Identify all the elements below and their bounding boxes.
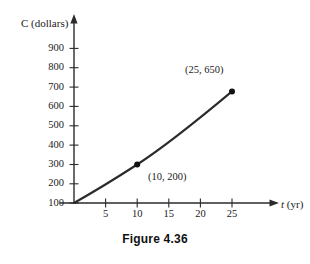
data-point-marker-25-650[interactable] (229, 88, 235, 94)
x-tick-label-15: 15 (157, 208, 181, 219)
chart-plot-area (0, 0, 310, 264)
y-tick-label-400: 400 (24, 139, 64, 150)
data-point-marker-10-200[interactable] (134, 162, 140, 168)
x-tick-label-20: 20 (188, 208, 212, 219)
y-axis-title: C (dollars) (21, 17, 68, 29)
x-axis-variable: t (281, 198, 284, 210)
x-tick-label-5: 5 (94, 208, 118, 219)
y-tick-label-100: 100 (24, 197, 64, 208)
y-tick-label-200: 200 (24, 177, 64, 188)
y-tick-label-900: 900 (24, 42, 64, 53)
figure-container: C (dollars) t (yr) 900 800 700 600 500 4… (0, 0, 310, 264)
y-tick-label-600: 600 (24, 100, 64, 111)
y-axis-arrowhead (70, 14, 77, 24)
y-tick-label-300: 300 (24, 158, 64, 169)
x-axis-title: t (yr) (281, 198, 303, 210)
figure-caption: Figure 4.36 (0, 232, 310, 246)
x-tick-label-10: 10 (125, 208, 149, 219)
y-tick-label-500: 500 (24, 119, 64, 130)
x-axis-arrowhead (270, 199, 280, 206)
y-tick-label-800: 800 (24, 61, 64, 72)
data-point-label-25-650: (25, 650) (185, 64, 224, 75)
cost-curve (74, 91, 232, 203)
x-axis-unit: (yr) (287, 198, 304, 210)
x-tick-label-25: 25 (220, 208, 244, 219)
data-point-label-10-200: (10, 200) (148, 171, 187, 182)
y-tick-label-700: 700 (24, 81, 64, 92)
